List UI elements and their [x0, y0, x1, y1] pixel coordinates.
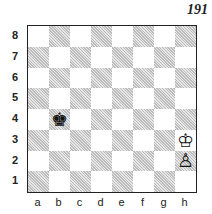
square-e2[interactable] [112, 151, 133, 172]
square-g2[interactable] [154, 151, 175, 172]
square-e3[interactable] [112, 130, 133, 151]
square-h8[interactable] [175, 26, 196, 47]
square-h7[interactable] [175, 47, 196, 68]
square-f2[interactable] [133, 151, 154, 172]
square-e1[interactable] [112, 171, 133, 192]
square-g6[interactable] [154, 68, 175, 89]
file-label-f: f [132, 196, 153, 208]
puzzle-number: 191 [187, 2, 208, 18]
square-h4[interactable] [175, 109, 196, 130]
file-label-h: h [174, 196, 195, 208]
square-d1[interactable] [91, 171, 112, 192]
square-h5[interactable] [175, 88, 196, 109]
rank-label-1: 1 [10, 174, 20, 186]
square-d2[interactable] [91, 151, 112, 172]
square-g7[interactable] [154, 47, 175, 68]
rank-label-2: 2 [10, 154, 20, 166]
square-f4[interactable] [133, 109, 154, 130]
square-g3[interactable] [154, 130, 175, 151]
square-b6[interactable] [49, 68, 70, 89]
square-h2[interactable]: ♙ [175, 151, 196, 172]
file-label-g: g [153, 196, 174, 208]
square-d5[interactable] [91, 88, 112, 109]
square-h3[interactable]: ♔ [175, 130, 196, 151]
rank-label-4: 4 [10, 112, 20, 124]
rank-label-5: 5 [10, 91, 20, 103]
square-f6[interactable] [133, 68, 154, 89]
square-c6[interactable] [70, 68, 91, 89]
square-b1[interactable] [49, 171, 70, 192]
square-g4[interactable] [154, 109, 175, 130]
square-b5[interactable] [49, 88, 70, 109]
chess-board[interactable]: ♚♔♙ [27, 25, 197, 193]
square-a8[interactable] [28, 26, 49, 47]
square-e4[interactable] [112, 109, 133, 130]
square-a1[interactable] [28, 171, 49, 192]
square-a3[interactable] [28, 130, 49, 151]
square-g1[interactable] [154, 171, 175, 192]
square-c4[interactable] [70, 109, 91, 130]
square-f1[interactable] [133, 171, 154, 192]
square-a7[interactable] [28, 47, 49, 68]
square-d6[interactable] [91, 68, 112, 89]
square-h6[interactable] [175, 68, 196, 89]
square-c5[interactable] [70, 88, 91, 109]
square-f3[interactable] [133, 130, 154, 151]
rank-label-8: 8 [10, 29, 20, 41]
white-pawn-icon[interactable]: ♙ [177, 151, 194, 170]
rank-label-6: 6 [10, 71, 20, 83]
square-c3[interactable] [70, 130, 91, 151]
rank-label-3: 3 [10, 133, 20, 145]
square-c2[interactable] [70, 151, 91, 172]
square-d4[interactable] [91, 109, 112, 130]
square-f5[interactable] [133, 88, 154, 109]
file-label-d: d [90, 196, 111, 208]
file-label-b: b [48, 196, 69, 208]
square-b3[interactable] [49, 130, 70, 151]
square-h1[interactable] [175, 171, 196, 192]
file-label-a: a [27, 196, 48, 208]
square-c7[interactable] [70, 47, 91, 68]
square-f7[interactable] [133, 47, 154, 68]
file-label-c: c [69, 196, 90, 208]
square-g5[interactable] [154, 88, 175, 109]
rank-label-7: 7 [10, 50, 20, 62]
square-a2[interactable] [28, 151, 49, 172]
square-a5[interactable] [28, 88, 49, 109]
square-e6[interactable] [112, 68, 133, 89]
square-b4[interactable]: ♚ [49, 109, 70, 130]
square-d7[interactable] [91, 47, 112, 68]
square-a4[interactable] [28, 109, 49, 130]
square-g8[interactable] [154, 26, 175, 47]
file-label-e: e [111, 196, 132, 208]
square-f8[interactable] [133, 26, 154, 47]
square-b7[interactable] [49, 47, 70, 68]
white-king-icon[interactable]: ♔ [177, 131, 194, 150]
square-b2[interactable] [49, 151, 70, 172]
square-c8[interactable] [70, 26, 91, 47]
square-e7[interactable] [112, 47, 133, 68]
black-king-icon[interactable]: ♚ [51, 110, 68, 129]
square-d3[interactable] [91, 130, 112, 151]
square-a6[interactable] [28, 68, 49, 89]
square-c1[interactable] [70, 171, 91, 192]
square-e8[interactable] [112, 26, 133, 47]
square-b8[interactable] [49, 26, 70, 47]
square-d8[interactable] [91, 26, 112, 47]
square-e5[interactable] [112, 88, 133, 109]
